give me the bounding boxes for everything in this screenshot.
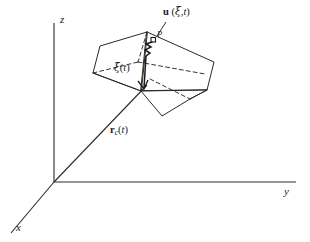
position-vector-line (54, 85, 147, 182)
position-vector-group (54, 85, 147, 182)
diagram-svg (0, 0, 310, 242)
point-P-label: P (157, 30, 162, 39)
xi-vector-arrowhead (138, 80, 148, 89)
hidden-edge-center-bottom (150, 79, 190, 99)
local-vector-label: ξ(t) (114, 62, 130, 74)
axis-group (11, 23, 296, 233)
body-hidden-edges (93, 32, 205, 99)
axis-label-z: z (60, 14, 64, 25)
figure-canvas: z y x u (ξ,t) ξ(t) rc(t) P (0, 0, 310, 242)
displacement-wavy-line (145, 42, 152, 56)
axis-label-x: x (16, 222, 21, 233)
displacement-vector-label: u (ξ,t) (163, 6, 190, 18)
body-upper-right-face (141, 32, 214, 91)
body-parallelepiped (93, 32, 214, 116)
axis-label-y: y (284, 186, 289, 197)
body-right-lower-edge (190, 90, 207, 99)
displacement-wavy-group (145, 42, 152, 56)
position-vector-label: rc(t) (110, 125, 128, 136)
hidden-edge-center-right (138, 62, 205, 74)
body-left-lower-edge (93, 73, 141, 91)
body-front-lower-face (141, 90, 207, 116)
